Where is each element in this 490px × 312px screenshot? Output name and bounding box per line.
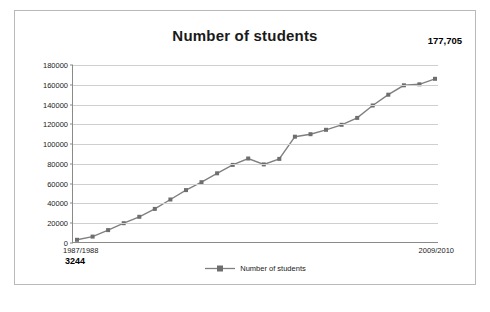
- y-axis-tick-mark: [70, 163, 73, 164]
- y-axis-tick-mark: [70, 183, 73, 184]
- x-axis-label-right: 2009/2010: [419, 246, 454, 255]
- y-axis-tick-label: 140000: [43, 100, 68, 109]
- y-axis-tick-label: 180000: [43, 61, 68, 70]
- gridline: [73, 164, 438, 165]
- annotation-end-value: 177,705: [428, 35, 462, 46]
- chart-container: Number of students 1987/1988 2009/2010 3…: [14, 10, 476, 285]
- y-axis-tick-label: 40000: [47, 199, 68, 208]
- legend-marker-icon: [205, 264, 235, 273]
- series-line: [73, 65, 439, 243]
- y-axis-tick-label: 60000: [47, 179, 68, 188]
- gridline: [73, 184, 438, 185]
- gridline: [73, 105, 438, 106]
- y-axis-tick-mark: [70, 65, 73, 66]
- gridline: [73, 85, 438, 86]
- gridline: [73, 65, 438, 66]
- y-axis-tick-mark: [70, 144, 73, 145]
- y-axis-tick-mark: [70, 203, 73, 204]
- y-axis-tick-mark: [70, 243, 73, 244]
- y-axis-tick-mark: [70, 124, 73, 125]
- y-axis-tick-label: 20000: [47, 219, 68, 228]
- gridline: [73, 203, 438, 204]
- chart-title: Number of students: [15, 27, 475, 44]
- y-axis-tick-label: 0: [64, 239, 68, 248]
- legend: Number of students: [73, 264, 438, 273]
- x-axis-label-left: 1987/1988: [63, 246, 98, 255]
- y-axis-tick-mark: [70, 104, 73, 105]
- y-axis-tick-label: 100000: [43, 140, 68, 149]
- gridline: [73, 223, 438, 224]
- gridline: [73, 124, 438, 125]
- gridline: [73, 144, 438, 145]
- y-axis-tick-mark: [70, 84, 73, 85]
- y-axis-tick-mark: [70, 223, 73, 224]
- y-axis-tick-label: 80000: [47, 159, 68, 168]
- legend-label: Number of students: [240, 264, 305, 273]
- y-axis-tick-label: 160000: [43, 80, 68, 89]
- y-axis-tick-label: 120000: [43, 120, 68, 129]
- plot-area: 1987/1988 2009/2010 3244 177,705 Number …: [72, 65, 438, 243]
